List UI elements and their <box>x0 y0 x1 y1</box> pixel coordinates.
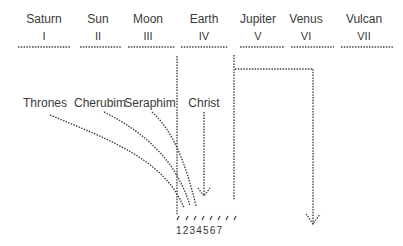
arrowhead-christ <box>198 188 210 196</box>
bottom-numbers: 1234567 <box>176 225 223 236</box>
curve-thrones <box>50 115 184 208</box>
diagram-lines <box>0 0 403 246</box>
curve-seraphim <box>152 112 196 206</box>
